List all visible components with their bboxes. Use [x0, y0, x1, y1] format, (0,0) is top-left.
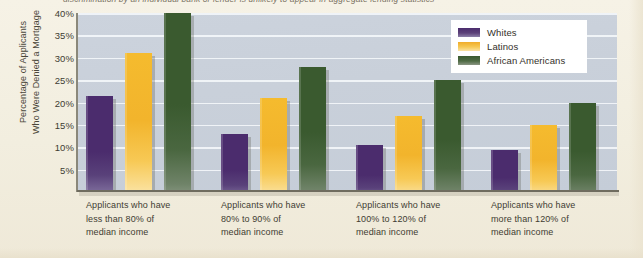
bar-fill — [434, 80, 461, 192]
x-axis-label-line: less than 80% of — [86, 213, 207, 227]
y-axis-title-line-1: Percentage of Applicants — [17, 0, 30, 157]
bar-shadow — [113, 99, 116, 192]
figure-caption-text: discrimination by an individual bank or … — [63, 0, 434, 4]
bar-fill — [221, 134, 248, 192]
y-axis-line — [76, 13, 78, 192]
bar-highlight — [164, 13, 166, 192]
x-axis-label-line: median income — [356, 226, 477, 240]
bar-highlight — [569, 103, 571, 193]
legend-item-label: Whites — [487, 27, 517, 38]
legend-swatch-icon — [458, 56, 480, 65]
bar-shadow — [557, 128, 560, 192]
legend-swatch-icon — [458, 28, 480, 37]
x-axis-label-line: Applicants who have — [221, 199, 342, 213]
bar-african-americans-group-4 — [569, 103, 596, 193]
x-axis-label-line: median income — [86, 226, 207, 240]
legend-swatch-icon — [458, 42, 480, 51]
bar-fill — [260, 98, 287, 192]
x-axis-label-group-1: Applicants who haveless than 80% ofmedia… — [86, 199, 207, 240]
x-axis-label-line: median income — [221, 226, 342, 240]
x-axis-label-line: Applicants who have — [491, 199, 612, 213]
y-tick-label: 35% — [30, 30, 74, 41]
bar-shadow — [596, 106, 599, 193]
bar-shadow — [326, 70, 329, 192]
bar-shadow — [248, 137, 251, 192]
bar-fill — [299, 67, 326, 192]
x-axis-labels: Applicants who haveless than 80% ofmedia… — [77, 199, 617, 249]
bar-whites-group-3 — [356, 145, 383, 192]
bar-whites-group-1 — [86, 96, 113, 192]
bar-shadow — [422, 119, 425, 192]
bar-shadow — [518, 153, 521, 193]
bar-fill — [125, 53, 152, 192]
x-axis-line — [77, 190, 619, 192]
legend-item-label: African Americans — [487, 55, 565, 66]
x-axis-label-group-4: Applicants who havemore than 120% ofmedi… — [491, 199, 612, 240]
bar-fill — [569, 103, 596, 193]
bar-fill — [395, 116, 422, 192]
chart-legend: WhitesLatinosAfrican Americans — [451, 20, 587, 73]
plot-top-gridline — [77, 13, 617, 15]
y-tick-label: 25% — [30, 75, 74, 86]
y-tick-label: 20% — [30, 97, 74, 108]
bar-highlight — [530, 125, 532, 192]
page-bottom-edge — [0, 248, 643, 258]
y-tick-label: 15% — [30, 119, 74, 130]
bar-whites-group-4 — [491, 150, 518, 193]
bar-highlight — [356, 145, 358, 192]
bar-latinos-group-3 — [395, 116, 422, 192]
y-tick-label: 5% — [30, 164, 74, 175]
chart-figure: discrimination by an individual bank or … — [0, 0, 643, 258]
x-axis-label-line: Applicants who have — [356, 199, 477, 213]
legend-item-african-americans: African Americans — [458, 53, 580, 67]
bar-shadow — [191, 16, 194, 192]
bar-latinos-group-1 — [125, 53, 152, 192]
x-axis-label-line: more than 120% of — [491, 213, 612, 227]
bar-highlight — [125, 53, 127, 192]
y-tick-label: 40% — [30, 8, 74, 19]
bar-highlight — [86, 96, 88, 192]
bar-shadow — [461, 83, 464, 192]
bar-whites-group-2 — [221, 134, 248, 192]
x-axis-label-group-3: Applicants who have100% to 120% ofmedian… — [356, 199, 477, 240]
bar-shadow — [383, 148, 386, 192]
bar-highlight — [434, 80, 436, 192]
bar-shadow — [287, 101, 290, 192]
bar-fill — [491, 150, 518, 193]
bar-highlight — [299, 67, 301, 192]
page-right-edge — [629, 0, 643, 258]
x-axis-label-line: 100% to 120% of — [356, 213, 477, 227]
legend-item-latinos: Latinos — [458, 39, 580, 53]
x-axis-label-group-2: Applicants who have80% to 90% ofmedian i… — [221, 199, 342, 240]
figure-caption-strip: discrimination by an individual bank or … — [0, 0, 643, 8]
legend-item-label: Latinos — [487, 41, 518, 52]
gridline — [77, 103, 617, 105]
x-axis-label-line: 80% to 90% of — [221, 213, 342, 227]
y-tick-label: 10% — [30, 142, 74, 153]
x-axis-label-line: median income — [491, 226, 612, 240]
bar-african-americans-group-1 — [164, 13, 191, 192]
plot-base-shadow — [79, 192, 619, 196]
x-axis-label-line: Applicants who have — [86, 199, 207, 213]
bar-highlight — [491, 150, 493, 193]
bar-fill — [356, 145, 383, 192]
bar-latinos-group-2 — [260, 98, 287, 192]
bar-highlight — [260, 98, 262, 192]
bar-shadow — [152, 56, 155, 192]
bar-african-americans-group-3 — [434, 80, 461, 192]
bar-fill — [164, 13, 191, 192]
bar-highlight — [221, 134, 223, 192]
bar-latinos-group-4 — [530, 125, 557, 192]
y-axis-ticks: 40%35%30%25%20%15%10%5% — [30, 13, 74, 192]
gridline — [77, 80, 617, 82]
legend-item-whites: Whites — [458, 25, 580, 39]
bar-fill — [530, 125, 557, 192]
bar-african-americans-group-2 — [299, 67, 326, 192]
bar-fill — [86, 96, 113, 192]
y-tick-label: 30% — [30, 52, 74, 63]
bar-highlight — [395, 116, 397, 192]
